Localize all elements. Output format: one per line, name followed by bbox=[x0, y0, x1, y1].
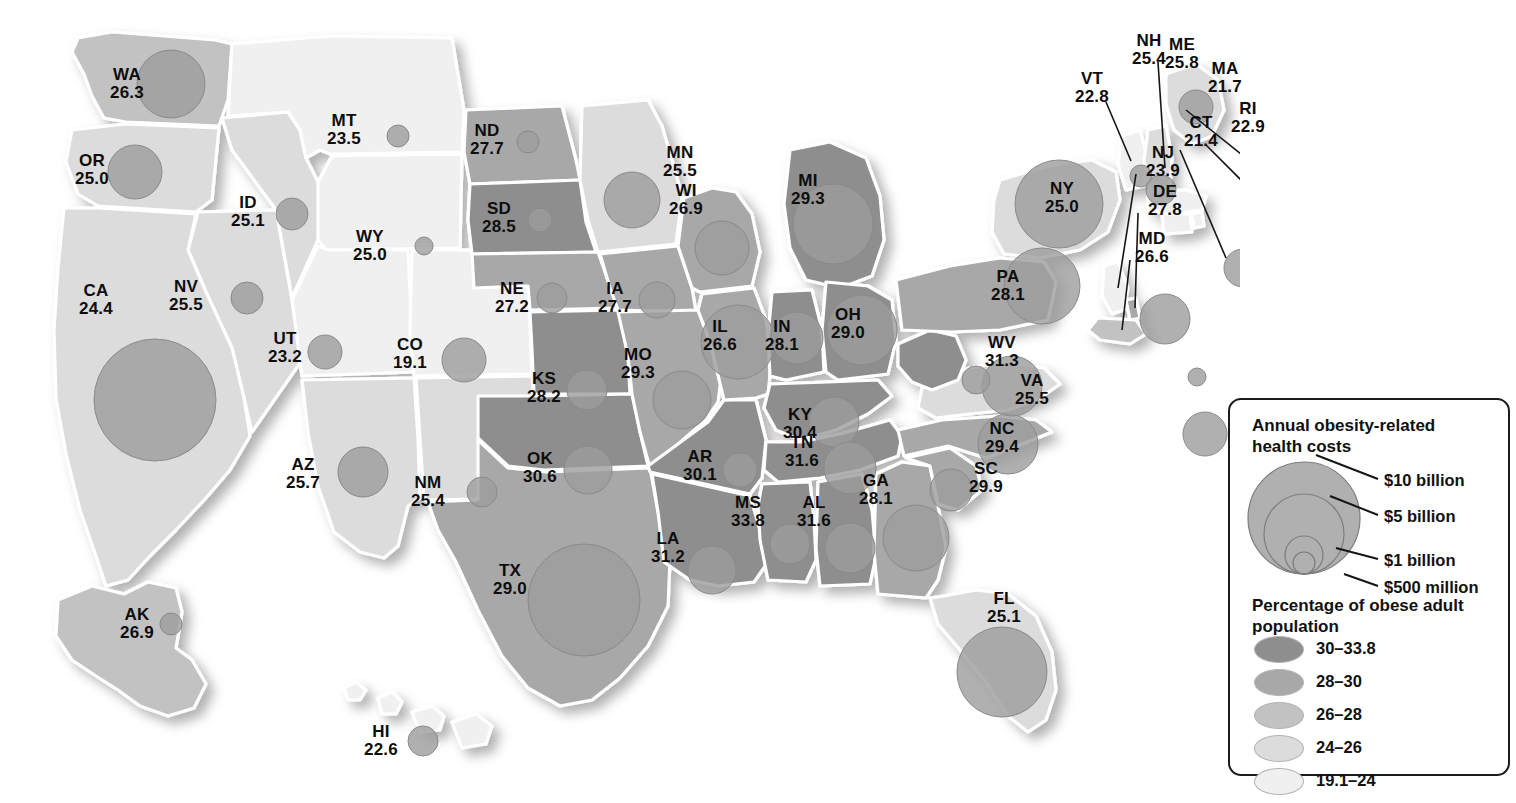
state-shape-ok bbox=[478, 394, 648, 470]
legend-swatch-label-4: 19.1–24 bbox=[1316, 771, 1376, 790]
cost-bubble-ia bbox=[639, 282, 675, 318]
cost-bubble-ok bbox=[564, 446, 612, 494]
state-shape-wy bbox=[318, 154, 462, 250]
us-map: WA26.3OR25.0ID25.1MT23.5WY25.0NV25.5UT23… bbox=[0, 0, 1240, 790]
legend-cost-label-3: $500 million bbox=[1384, 578, 1478, 597]
cost-bubble-ak bbox=[160, 613, 182, 635]
cost-bubble-ky bbox=[809, 397, 859, 447]
cost-bubble-az bbox=[338, 447, 388, 497]
cost-bubble-al bbox=[825, 523, 875, 573]
cost-bubble-tx bbox=[528, 544, 640, 656]
cost-bubble-va bbox=[982, 356, 1042, 416]
legend-leader-lines bbox=[1230, 400, 1508, 600]
legend-cost-label-2: $1 billion bbox=[1384, 551, 1456, 570]
legend-pct-title: Percentage of obese adult population bbox=[1252, 596, 1490, 637]
legend-swatch-4 bbox=[1254, 768, 1304, 795]
cost-bubble-ut bbox=[308, 335, 342, 369]
legend-swatch-1 bbox=[1254, 669, 1304, 696]
cost-bubble-nd bbox=[517, 131, 539, 153]
cost-bubble-wa bbox=[137, 50, 205, 118]
cost-bubble-nv bbox=[231, 282, 263, 314]
cost-bubble-mt bbox=[387, 125, 409, 147]
leader-line-ri bbox=[1206, 145, 1240, 219]
cost-bubble-wi bbox=[695, 221, 749, 275]
legend-panel: Annual obesity-related health costs $10 … bbox=[1228, 398, 1510, 776]
cost-bubble-sd bbox=[528, 208, 552, 232]
cost-bubble-sc bbox=[930, 469, 972, 511]
cost-bubble-il bbox=[701, 305, 775, 379]
cost-bubble-id bbox=[276, 198, 308, 230]
cost-bubble-mi bbox=[793, 184, 873, 264]
legend-cost-line-3 bbox=[1344, 574, 1378, 586]
cost-bubble-la bbox=[688, 546, 736, 594]
cost-bubble-co bbox=[442, 338, 486, 382]
cost-bubble-ms bbox=[770, 524, 810, 564]
legend-swatch-label-3: 24–26 bbox=[1316, 738, 1362, 757]
legend-swatch-label-2: 26–28 bbox=[1316, 705, 1362, 724]
cost-bubble-ks bbox=[567, 370, 607, 410]
leader-line-de bbox=[1135, 213, 1138, 308]
state-polygons bbox=[54, 32, 1224, 748]
state-shape-ri bbox=[1192, 212, 1204, 228]
cost-bubble-nm bbox=[467, 477, 497, 507]
cost-bubble-ar bbox=[723, 453, 757, 487]
legend-cost-line-1 bbox=[1330, 496, 1378, 515]
us-map-svg bbox=[0, 0, 1240, 790]
cost-bubble-hi bbox=[408, 726, 438, 756]
legend-swatch-label-1: 28–30 bbox=[1316, 672, 1362, 691]
cost-bubble-ne bbox=[537, 283, 567, 313]
legend-swatch-0 bbox=[1254, 636, 1304, 663]
state-shape-md bbox=[1088, 318, 1146, 344]
cost-bubble-oh bbox=[827, 295, 897, 365]
legend-swatch-2 bbox=[1254, 702, 1304, 729]
cost-bubble-ct bbox=[1224, 249, 1240, 287]
state-shape-de bbox=[1126, 298, 1140, 320]
state-shape-wv bbox=[898, 330, 966, 390]
cost-bubble-mn bbox=[604, 172, 660, 228]
legend-swatch-label-0: 30–33.8 bbox=[1316, 639, 1376, 658]
state-abbr: RI bbox=[1239, 99, 1256, 118]
legend-swatch-3 bbox=[1254, 735, 1304, 762]
legend-cost-line-0 bbox=[1316, 455, 1378, 479]
cost-bubble-pa bbox=[1004, 248, 1080, 324]
legend-cost-label-0: $10 billion bbox=[1384, 471, 1465, 490]
cost-bubble-ga bbox=[883, 505, 949, 571]
cost-bubble-de bbox=[1188, 368, 1206, 386]
state-shape-ct bbox=[1162, 214, 1192, 234]
state-shape-ak bbox=[56, 582, 206, 716]
cost-bubble-mo bbox=[653, 371, 711, 429]
cost-bubble-in bbox=[771, 312, 823, 364]
cost-bubble-or bbox=[108, 145, 162, 199]
cost-bubble-fl bbox=[957, 627, 1047, 717]
cost-bubble-nj bbox=[1140, 294, 1190, 344]
obesity-map-figure: WA26.3OR25.0ID25.1MT23.5WY25.0NV25.5UT23… bbox=[0, 0, 1516, 803]
cost-bubble-nh bbox=[1146, 175, 1176, 205]
legend-cost-line-2 bbox=[1336, 548, 1378, 559]
cost-bubble-wy bbox=[415, 237, 433, 255]
cost-bubble-md bbox=[1183, 412, 1227, 456]
cost-bubble-wv bbox=[962, 366, 990, 394]
cost-bubble-ny bbox=[1015, 160, 1103, 248]
cost-bubble-tn bbox=[824, 442, 876, 494]
legend-cost-label-1: $5 billion bbox=[1384, 507, 1456, 526]
cost-bubble-nc bbox=[978, 414, 1038, 474]
cost-bubble-ca bbox=[94, 339, 216, 461]
